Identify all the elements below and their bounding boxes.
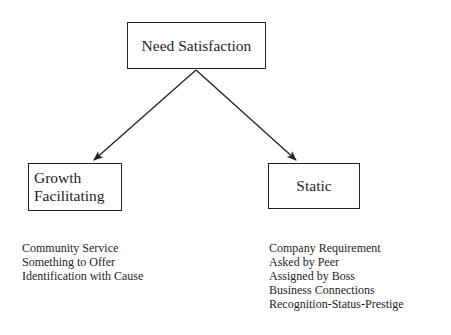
arrow-to-growth-facilitating xyxy=(94,70,196,160)
list-item: Community Service xyxy=(22,241,143,255)
list-item: Asked by Peer xyxy=(269,255,404,269)
static-box: Static xyxy=(268,163,360,209)
list-item: Company Requirement xyxy=(269,241,404,255)
list-item: Assigned by Boss xyxy=(269,269,404,283)
need-satisfaction-box: Need Satisfaction xyxy=(127,22,266,69)
static-items: Company Requirement Asked by Peer Assign… xyxy=(269,241,404,311)
growth-facilitating-items: Community Service Something to Offer Ide… xyxy=(22,241,143,283)
growth-facilitating-label-line-1: Growth xyxy=(34,169,105,187)
list-item: Business Connections xyxy=(269,283,404,297)
list-item: Recognition-Status-Prestige xyxy=(269,297,404,311)
arrow-to-static xyxy=(196,70,296,160)
need-satisfaction-label: Need Satisfaction xyxy=(142,37,252,55)
growth-facilitating-box: Growth Facilitating xyxy=(28,163,122,211)
static-label: Static xyxy=(296,177,331,195)
list-item: Something to Offer xyxy=(22,255,143,269)
list-item: Identification with Cause xyxy=(22,269,143,283)
growth-facilitating-label-line-2: Facilitating xyxy=(34,187,105,205)
diagram-canvas: Need Satisfaction Growth Facilitating St… xyxy=(0,0,451,335)
